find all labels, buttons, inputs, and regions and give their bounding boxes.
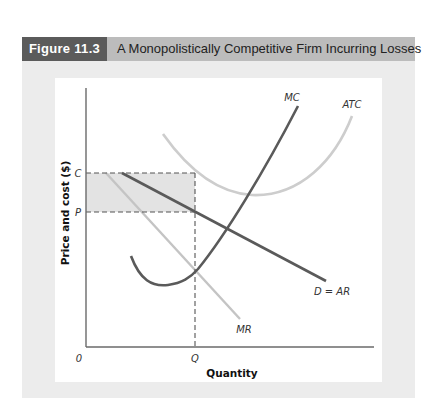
mr-label: MR — [236, 324, 252, 335]
y-axis-title: Price and cost ($) — [59, 161, 71, 265]
atc-label: ATC — [341, 99, 361, 110]
p-tick-label: P — [75, 207, 82, 218]
q-tick-label: Q — [191, 353, 199, 364]
chart: MC ATC D = AR MR C P 0 Q Quantity Price … — [0, 0, 436, 415]
demand-label: D = AR — [314, 286, 350, 297]
loss-area — [86, 173, 195, 212]
origin-label: 0 — [76, 353, 82, 364]
x-axis-title: Quantity — [206, 367, 258, 379]
mc-label: MC — [284, 92, 300, 103]
c-tick-label: C — [75, 168, 82, 179]
